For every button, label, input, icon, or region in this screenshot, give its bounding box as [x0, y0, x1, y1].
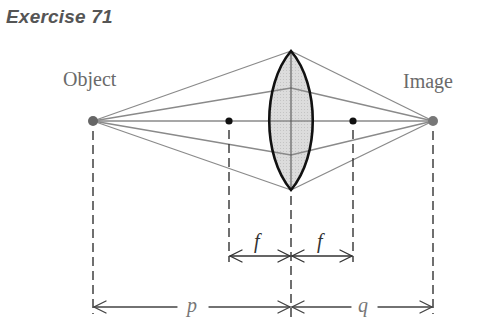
ray-4-incident: [93, 121, 291, 155]
ray-2-incident: [93, 88, 291, 121]
focal-length-left-label: f: [254, 230, 262, 253]
lens-diagram-canvas: Exercise 71: [0, 0, 486, 334]
ray-5-incident: [93, 121, 291, 190]
object-label: Object: [63, 68, 117, 91]
thin-lens-ray-diagram: Object Image f f p q: [0, 0, 486, 334]
focal-point-right: [349, 117, 356, 124]
image-point: [428, 116, 438, 126]
focal-length-right-label: f: [317, 230, 325, 253]
distance-dimensions: [94, 301, 432, 313]
object-distance-label: p: [185, 294, 197, 317]
image-distance-label: q: [358, 294, 368, 317]
object-point: [88, 116, 98, 126]
image-label: Image: [403, 70, 453, 93]
focal-point-left: [225, 117, 232, 124]
incident-rays: [93, 51, 291, 190]
ray-1-incident: [93, 51, 291, 121]
dashed-reference-lines: [93, 130, 433, 320]
